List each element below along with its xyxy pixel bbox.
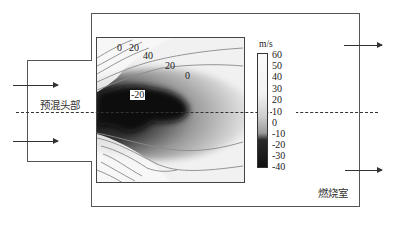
- outlet-arrow-bottom: [345, 170, 382, 171]
- colorbar-tick-minus-20: -20: [272, 140, 296, 150]
- colorbar-tick-10: 10: [272, 107, 296, 117]
- centerline: [16, 112, 378, 113]
- colorbar-tick-50: 50: [272, 61, 296, 71]
- contour-label-minus-20: -20: [130, 90, 145, 100]
- contour-label-40: 40: [143, 51, 153, 61]
- contour-label-0-upper: 0: [117, 43, 122, 53]
- colorbar-tick-0: 0: [272, 118, 296, 128]
- colorbar-tick-minus-30: -30: [272, 151, 296, 161]
- outlet-arrow-top: [344, 45, 382, 46]
- inlet-arrow-bottom: [13, 141, 58, 142]
- colorbar-unit: m/s: [259, 39, 273, 49]
- contour-label-20-middle: 20: [165, 61, 175, 71]
- combustion-chamber-label: 燃烧室: [318, 185, 348, 200]
- premix-head-label: 预混头部: [40, 97, 80, 112]
- contour-label-0-zero: 0: [185, 71, 190, 81]
- contour-label-20-upper: 20: [129, 43, 139, 53]
- colorbar-tick-40: 40: [272, 72, 296, 82]
- colorbar: [257, 53, 268, 168]
- colorbar-tick-minus-10: -10: [272, 129, 296, 139]
- colorbar-tick-30: 30: [272, 84, 296, 94]
- colorbar-tick-60: 60: [272, 50, 296, 60]
- velocity-contour-plot: 0 20 40 20 0 -20: [96, 37, 245, 183]
- colorbar-tick-20: 20: [272, 95, 296, 105]
- inlet-arrow-top: [13, 85, 58, 86]
- colorbar-tick-minus-40: -40: [272, 162, 296, 172]
